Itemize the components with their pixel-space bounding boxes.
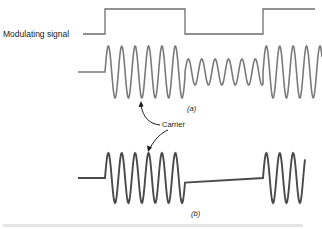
ook-waveform-b [78, 153, 305, 203]
modulation-diagram: Modulating signal (a) Carrier (b) [0, 0, 322, 229]
modulating-signal-waveform [83, 9, 315, 34]
carrier-label: Carrier [162, 120, 185, 129]
panel-b-label: (b) [191, 209, 201, 218]
panel-a-label: (a) [187, 104, 197, 113]
carrier-arrow-down [150, 130, 168, 148]
arrowhead-up-icon [139, 101, 144, 107]
caption-text-illegible [3, 224, 303, 227]
modulating-signal-label: Modulating signal [3, 29, 69, 39]
carrier-arrow-up [141, 105, 160, 125]
am-waveform-a [78, 46, 322, 98]
